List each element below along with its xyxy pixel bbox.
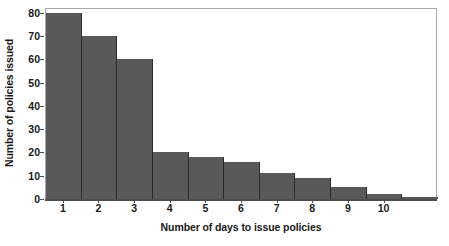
- x-tick-mark: [63, 200, 64, 203]
- x-tick-mark: [384, 200, 385, 203]
- x-tick-mark: [241, 200, 242, 203]
- y-tick-mark: [40, 176, 44, 177]
- bar: [331, 187, 367, 199]
- y-tick-label: 80: [14, 7, 40, 18]
- bars-container: [46, 9, 436, 199]
- x-tick-label: 7: [274, 203, 280, 214]
- x-tick-mark: [98, 200, 99, 203]
- bar: [189, 157, 225, 199]
- x-tick-label: 10: [378, 203, 390, 214]
- y-tick-mark: [40, 59, 44, 60]
- bar: [117, 59, 153, 199]
- x-tick-label: 3: [131, 203, 137, 214]
- y-tick-label: 60: [14, 54, 40, 65]
- y-tick-mark: [40, 199, 44, 200]
- y-tick-mark: [40, 13, 44, 14]
- y-tick-mark: [40, 83, 44, 84]
- bar: [295, 178, 331, 199]
- x-tick-label: 5: [202, 203, 208, 214]
- y-tick-label: 50: [14, 77, 40, 88]
- y-tick-label: 20: [14, 147, 40, 158]
- y-tick-mark: [40, 36, 44, 37]
- y-tick-label: 40: [14, 101, 40, 112]
- x-axis-tick-labels: 12345678910: [45, 203, 437, 221]
- x-tick-label: 8: [309, 203, 315, 214]
- x-tick-mark: [170, 200, 171, 203]
- x-tick-label: 6: [238, 203, 244, 214]
- y-tick-label: 30: [14, 124, 40, 135]
- bar: [153, 152, 189, 199]
- x-axis-title: Number of days to issue policies: [45, 221, 437, 233]
- y-tick-mark: [40, 129, 44, 130]
- y-tick-label: 70: [14, 31, 40, 42]
- x-tick-mark: [348, 200, 349, 203]
- plot-area: [45, 8, 437, 200]
- x-tick-mark: [277, 200, 278, 203]
- bar: [82, 36, 118, 199]
- x-tick-label: 4: [167, 203, 173, 214]
- x-tick-label: 9: [345, 203, 351, 214]
- y-axis-tick-labels: 01020304050607080: [14, 0, 40, 246]
- y-tick-label: 0: [14, 194, 40, 205]
- x-tick-mark: [205, 200, 206, 203]
- x-tick-label: 1: [60, 203, 66, 214]
- x-tick-mark: [134, 200, 135, 203]
- bar: [260, 173, 296, 199]
- x-tick-mark: [312, 200, 313, 203]
- y-tick-mark: [40, 152, 44, 153]
- bar: [224, 162, 260, 199]
- x-tick-label: 2: [96, 203, 102, 214]
- histogram-figure: Number of policies issued 01020304050607…: [0, 0, 449, 246]
- y-tick-mark: [40, 106, 44, 107]
- bar: [46, 13, 82, 199]
- y-tick-label: 10: [14, 170, 40, 181]
